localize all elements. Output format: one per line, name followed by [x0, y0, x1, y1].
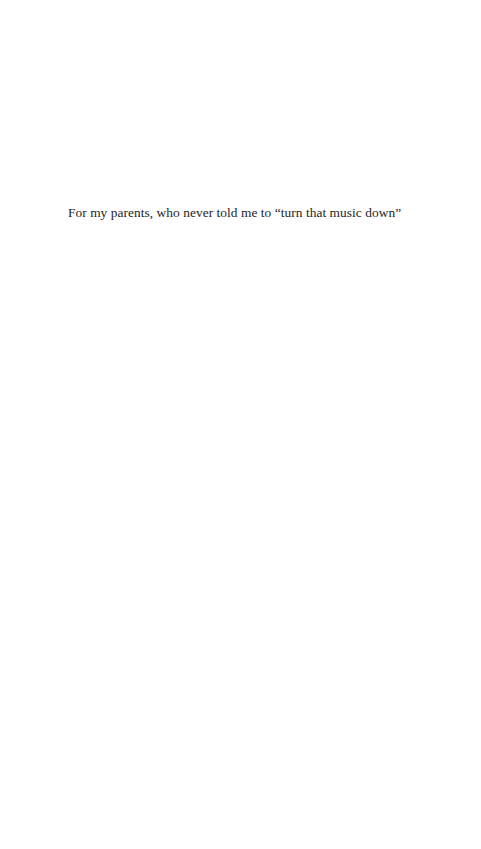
dedication-text: For my parents, who never told me to “tu… [68, 205, 401, 221]
book-page: For my parents, who never told me to “tu… [0, 0, 481, 849]
